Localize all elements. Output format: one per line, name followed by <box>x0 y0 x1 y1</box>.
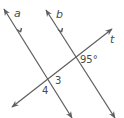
line-b-label: b <box>56 8 63 21</box>
parallel-marker-icon <box>58 28 63 32</box>
line-t: t <box>12 29 115 107</box>
angle-3-label: 3 <box>55 75 61 86</box>
line-a-label: a <box>14 7 21 20</box>
parallel-lines-diagram: a b t 95° 3 4 <box>0 0 124 118</box>
angle-4-label: 4 <box>42 85 48 96</box>
angle-95-label: 95° <box>80 54 98 65</box>
line-t-label: t <box>110 33 115 46</box>
line-a: a <box>4 7 72 118</box>
